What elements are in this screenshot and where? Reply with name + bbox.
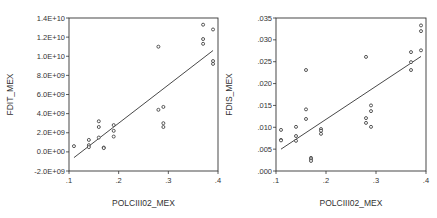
chart-canvas: -2.0E+090.0E+002.0E+094.0E+096.0E+098.0E… [0, 0, 437, 218]
regression-line [74, 51, 213, 158]
y-tick-label: .035 [257, 14, 272, 23]
y-tick-label: -2.0E+09 [34, 167, 65, 176]
x-tick-label: .3 [373, 176, 379, 185]
fdis-scatter-panel: .000.005.010.015.020.025.030.035.1.2.3.4… [224, 14, 429, 208]
y-tick-label: .030 [257, 35, 272, 44]
plot-frame [276, 18, 426, 171]
data-point [370, 110, 373, 113]
y-tick-label: .020 [257, 79, 272, 88]
data-point [202, 38, 205, 41]
data-point [365, 121, 368, 124]
data-point [162, 126, 165, 129]
y-tick-label: 1.0E+10 [37, 52, 65, 61]
data-point [320, 132, 323, 135]
regression-line [281, 56, 421, 149]
data-point [72, 145, 75, 148]
data-point [202, 23, 205, 26]
data-point [212, 28, 215, 31]
y-tick-label: .025 [257, 57, 272, 66]
data-point [112, 135, 115, 138]
data-point [320, 129, 323, 132]
y-tick-label: 6.0E+09 [37, 90, 65, 99]
data-point [112, 124, 115, 127]
y-tick-label: 8.0E+09 [37, 71, 65, 80]
data-point [112, 129, 115, 132]
data-point [102, 147, 105, 150]
y-tick-label: .015 [257, 101, 272, 110]
data-point [162, 122, 165, 125]
x-tick-label: .4 [215, 176, 221, 185]
plot-frame [69, 18, 218, 171]
x-axis-title: POLCIII02_MEX [320, 198, 383, 208]
data-point [97, 120, 100, 123]
data-point [420, 30, 423, 33]
data-point [410, 51, 413, 54]
data-point [97, 126, 100, 129]
data-point [162, 105, 165, 108]
data-point [97, 136, 100, 139]
y-tick-label: .000 [257, 167, 272, 176]
data-point [365, 117, 368, 120]
data-point [280, 139, 283, 142]
x-tick-label: .2 [116, 176, 122, 185]
data-point [310, 159, 313, 162]
data-point [410, 61, 413, 64]
x-tick-label: .4 [423, 176, 429, 185]
data-point [202, 42, 205, 45]
data-point [365, 55, 368, 58]
data-point [295, 125, 298, 128]
x-tick-label: .3 [165, 176, 171, 185]
y-tick-label: 1.2E+10 [37, 33, 65, 42]
data-point [87, 146, 90, 149]
data-point [295, 139, 298, 142]
data-point [87, 138, 90, 141]
fdit-scatter-panel: -2.0E+090.0E+002.0E+094.0E+096.0E+098.0E… [5, 14, 221, 208]
y-tick-label: 2.0E+09 [37, 128, 65, 137]
x-tick-label: .1 [273, 176, 279, 185]
data-point [157, 45, 160, 48]
y-tick-label: 0.0E+00 [37, 147, 65, 156]
data-point [420, 24, 423, 27]
data-point [305, 69, 308, 72]
y-tick-label: .010 [257, 123, 272, 132]
data-point [420, 49, 423, 52]
data-point [212, 62, 215, 65]
data-point [305, 117, 308, 120]
x-tick-label: .2 [323, 176, 329, 185]
data-point [305, 108, 308, 111]
data-point [370, 125, 373, 128]
data-point [295, 135, 298, 138]
data-point [410, 69, 413, 72]
y-tick-label: 4.0E+09 [37, 109, 65, 118]
y-tick-label: .005 [257, 145, 272, 154]
data-point [157, 108, 160, 111]
data-point [370, 104, 373, 107]
y-tick-label: 1.4E+10 [37, 14, 65, 23]
y-axis-title: FDIT_MEX [5, 73, 15, 115]
x-tick-label: .1 [66, 176, 72, 185]
y-axis-title: FDIS_MEX [224, 73, 234, 116]
x-axis-title: POLCIII02_MEX [112, 198, 175, 208]
data-point [280, 128, 283, 131]
